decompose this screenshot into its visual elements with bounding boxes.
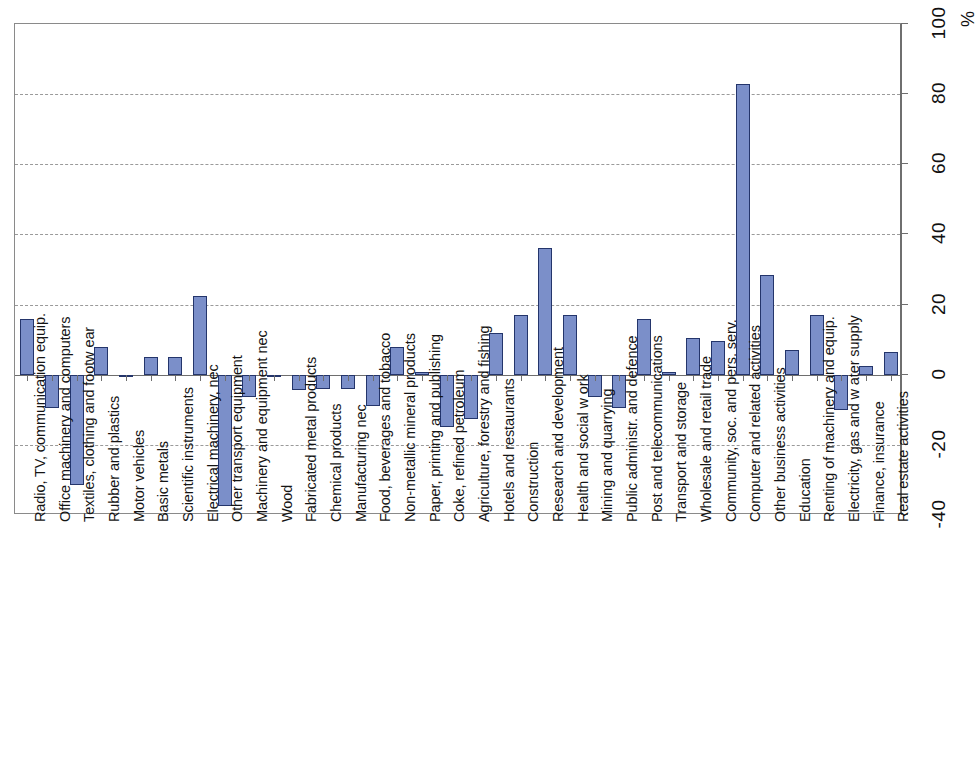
value-axis-label: 100 (928, 6, 950, 39)
category-tick (373, 375, 374, 381)
category-tick (595, 375, 596, 381)
category-tick (471, 375, 472, 381)
category-tick (77, 375, 78, 381)
value-axis-label: 80 (928, 82, 950, 104)
category-label: Electrical machinery, nec (205, 364, 221, 522)
category-tick (669, 375, 670, 381)
value-axis-label: -40 (928, 500, 950, 529)
category-label: Wholesale and retail trade (698, 356, 714, 522)
category-tick (151, 375, 152, 381)
category-label: Basic metals (155, 441, 171, 522)
category-label: Other transport equipment (229, 355, 245, 522)
category-label: Other business activities (772, 367, 788, 522)
category-label: Health and social w ork (575, 374, 591, 522)
category-label: Chemical products (328, 404, 344, 522)
value-axis-tick (901, 93, 908, 94)
category-label: Real estate activities (895, 391, 911, 522)
category-label: Computer and related activities (747, 325, 763, 522)
category-tick (570, 375, 571, 381)
category-tick (299, 375, 300, 381)
category-label: Post and telecommunications (649, 335, 665, 522)
category-tick (225, 375, 226, 381)
category-tick (422, 375, 423, 381)
category-label: Transport and storage (673, 382, 689, 522)
category-tick (866, 375, 867, 381)
category-label: Office machinery and computers (57, 317, 73, 522)
category-tick (521, 375, 522, 381)
category-label: Machinery and equipment nec (254, 330, 270, 522)
bar-chart: -40-20020406080100 Radio, TV, communicat… (0, 0, 977, 775)
category-label: Mining and quarrying (599, 389, 615, 522)
category-tick (249, 375, 250, 381)
category-label: Wood (279, 485, 295, 522)
category-tick (101, 375, 102, 381)
category-tick (397, 375, 398, 381)
value-axis-tick (901, 374, 908, 375)
category-tick (718, 375, 719, 381)
category-tick (175, 375, 176, 381)
value-axis-label: 20 (928, 292, 950, 314)
value-axis-label: 60 (928, 152, 950, 174)
category-label: Paper, printing and publishing (427, 334, 443, 522)
category-label: Construction (525, 442, 541, 522)
category-tick (348, 375, 349, 381)
category-tick (767, 375, 768, 381)
category-tick (792, 375, 793, 381)
category-label: Textiles, clothing and footw ear (81, 327, 97, 522)
category-tick (693, 375, 694, 381)
category-label: Non-metallic mineral products (402, 333, 418, 522)
value-axis-label: 40 (928, 222, 950, 244)
category-label: Renting of machinery and equip. (821, 316, 837, 522)
category-tick (27, 375, 28, 381)
category-label: Finance, insurance (871, 401, 887, 522)
category-tick (891, 375, 892, 381)
category-label: Education (797, 458, 813, 522)
category-label: Public administr. and defence (624, 335, 640, 522)
bar[interactable] (514, 315, 528, 375)
category-tick (126, 375, 127, 381)
category-label: Agriculture, forestry and fishing (476, 325, 492, 522)
value-axis-label: -20 (928, 429, 950, 458)
value-axis-tick (901, 304, 908, 305)
category-label: Coke, refined petroleum (451, 370, 467, 522)
category-label: Research and development (550, 347, 566, 522)
category-label: Community, soc. and pers. serv. (723, 319, 739, 522)
bar[interactable] (193, 296, 207, 375)
category-tick (323, 375, 324, 381)
bar[interactable] (168, 357, 182, 375)
category-tick (644, 375, 645, 381)
unit-label: % (958, 11, 977, 27)
category-tick (274, 375, 275, 381)
category-label: Electricity, gas and w ater supply (846, 315, 862, 522)
category-tick (200, 375, 201, 381)
category-tick (743, 375, 744, 381)
value-axis-label: 0 (928, 368, 950, 379)
value-axis-tick (901, 23, 908, 24)
category-label: Scientific instruments (180, 387, 196, 522)
category-label: Manufacturing nec (353, 404, 369, 522)
category-label: Fabricated metal products (303, 357, 319, 522)
value-axis-tick (901, 163, 908, 164)
category-tick (496, 375, 497, 381)
category-label: Motor vehicles (131, 430, 147, 522)
category-tick (447, 375, 448, 381)
category-tick (841, 375, 842, 381)
bar[interactable] (144, 357, 158, 375)
category-label: Radio, TV, communication equip. (32, 313, 48, 522)
category-label: Hotels and restaurants (501, 378, 517, 522)
category-tick (52, 375, 53, 381)
value-axis-tick (901, 233, 908, 234)
category-tick (619, 375, 620, 381)
category-label: Rubber and plastics (106, 396, 122, 522)
category-label: Food, beverages and tobacco (377, 333, 393, 522)
category-tick (817, 375, 818, 381)
bar[interactable] (884, 352, 898, 375)
category-tick (545, 375, 546, 381)
